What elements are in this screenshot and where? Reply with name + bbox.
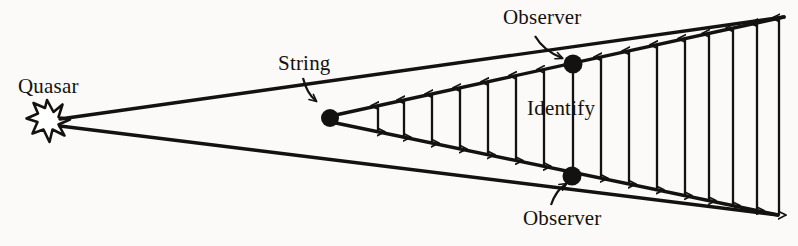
string-node-dot — [321, 109, 339, 127]
string-label: String — [278, 51, 331, 76]
observer-top-pointer-arrow-icon — [535, 36, 562, 58]
quasar-star-icon — [27, 100, 71, 142]
figure-canvas: Quasar String Observer Identify Observer — [0, 0, 798, 246]
identify-label: Identify — [527, 96, 595, 121]
observer-bottom-label: Observer — [523, 206, 602, 231]
observer-top-label: Observer — [503, 5, 582, 30]
observer-bottom-node-dot — [563, 167, 582, 186]
observer-top-node-dot — [564, 55, 583, 74]
diagram-svg — [0, 0, 798, 246]
quasar-label: Quasar — [18, 74, 79, 99]
string-pointer-arrow-icon — [303, 78, 316, 101]
outer-cone-rays — [60, 17, 784, 215]
outer-upper-ray — [60, 17, 784, 119]
